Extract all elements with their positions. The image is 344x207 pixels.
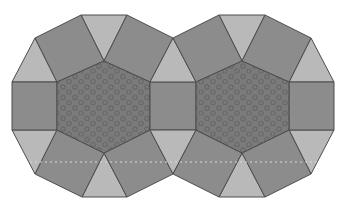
square-left [12, 82, 57, 130]
square-shared-middle [150, 82, 196, 130]
square-right [289, 82, 334, 130]
dual-dodecagon-tiling-diagram [0, 0, 344, 207]
